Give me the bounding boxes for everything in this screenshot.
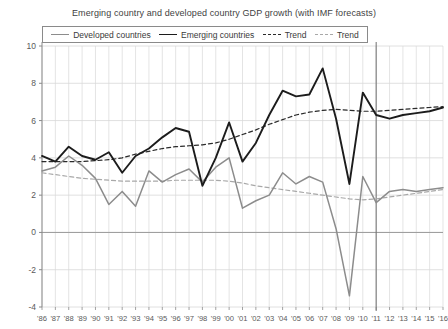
svg-text:'16: '16: [438, 314, 448, 323]
svg-text:'09: '09: [344, 314, 354, 323]
svg-text:'04: '04: [278, 314, 288, 323]
svg-text:'07: '07: [318, 314, 328, 323]
svg-text:'11: '11: [371, 314, 380, 323]
svg-text:'03: '03: [264, 314, 274, 323]
svg-text:'98: '98: [197, 314, 207, 323]
svg-text:'97: '97: [184, 314, 194, 323]
svg-text:'94: '94: [144, 314, 154, 323]
svg-text:6: 6: [31, 116, 36, 126]
svg-text:'96: '96: [171, 314, 181, 323]
svg-text:'87: '87: [50, 314, 60, 323]
svg-text:'12: '12: [385, 314, 395, 323]
svg-text:'95: '95: [157, 314, 167, 323]
chart-plot-area: -4-20246810 '86'87'88'89'90'91'92'93'94'…: [0, 0, 448, 329]
svg-text:'99: '99: [211, 314, 221, 323]
svg-text:'13: '13: [398, 314, 408, 323]
x-axis-tick-labels: '86'87'88'89'90'91'92'93'94'95'96'97'98'…: [37, 314, 448, 323]
svg-text:'92: '92: [117, 314, 127, 323]
svg-text:'91: '91: [104, 314, 114, 323]
svg-text:'00: '00: [224, 314, 234, 323]
svg-text:'86: '86: [37, 314, 47, 323]
svg-text:2: 2: [31, 190, 36, 200]
svg-text:'14: '14: [411, 314, 421, 323]
grid-lines: [42, 46, 443, 307]
svg-text:10: 10: [27, 41, 37, 51]
svg-text:-4: -4: [28, 302, 36, 312]
svg-text:8: 8: [31, 78, 36, 88]
svg-text:'05: '05: [291, 314, 301, 323]
svg-text:'90: '90: [91, 314, 101, 323]
svg-text:'93: '93: [131, 314, 141, 323]
svg-text:'89: '89: [77, 314, 87, 323]
y-axis-tick-labels: -4-20246810: [27, 41, 37, 312]
svg-text:'01: '01: [238, 314, 248, 323]
svg-text:0: 0: [31, 227, 36, 237]
svg-text:'08: '08: [331, 314, 341, 323]
svg-text:'15: '15: [425, 314, 435, 323]
chart-container: Emerging country and developed country G…: [0, 0, 448, 329]
svg-text:'02: '02: [251, 314, 261, 323]
svg-text:4: 4: [31, 153, 36, 163]
svg-text:'10: '10: [358, 314, 368, 323]
svg-text:'88: '88: [64, 314, 74, 323]
svg-text:'06: '06: [304, 314, 314, 323]
svg-text:-2: -2: [28, 265, 36, 275]
